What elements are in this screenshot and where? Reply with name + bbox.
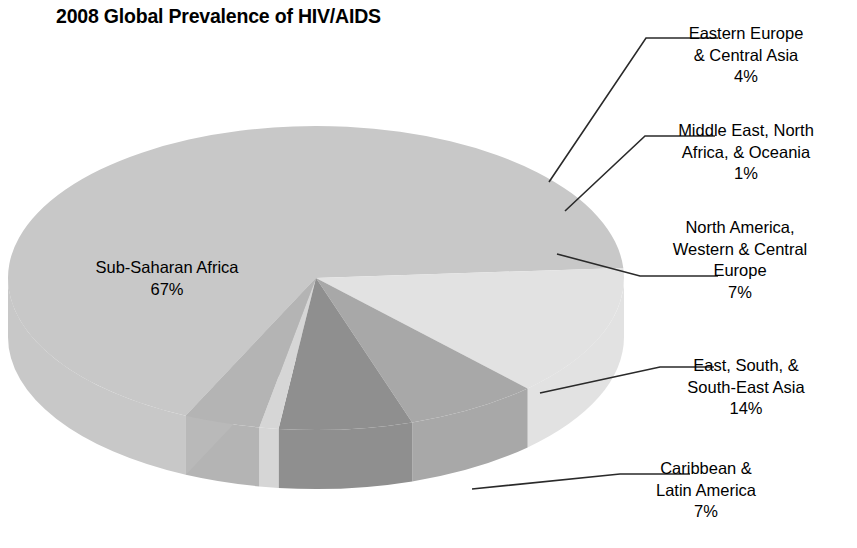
callout-percent: 14% — [648, 398, 844, 419]
slice-side-middle-east-north-africa-oceania — [259, 427, 278, 488]
slice-side-north-america-western-central-europe — [279, 422, 413, 489]
callout-name: Caribbean & Latin America — [656, 459, 756, 498]
callout-north-america-western-central-europe: North America, Western & Central Europe … — [636, 196, 844, 325]
callout-name: Eastern Europe & Central Asia — [689, 24, 804, 63]
callout-percent: 7% — [608, 501, 804, 522]
callout-percent: 1% — [648, 163, 844, 184]
slice-label-sub-saharan-africa: Sub-Saharan Africa 67% — [58, 236, 276, 300]
slice-label-percent: 67% — [150, 280, 183, 298]
callout-name: East, South, & South-East Asia — [687, 356, 804, 395]
callout-name: North America, Western & Central Europe — [673, 218, 808, 279]
slice-label-name: Sub-Saharan Africa — [95, 258, 238, 276]
callout-middle-east-north-africa-oceania: Middle East, North Africa, & Oceania 1% — [648, 99, 844, 206]
callout-eastern-europe-central-asia: Eastern Europe & Central Asia 4% — [648, 2, 844, 109]
callout-name: Middle East, North Africa, & Oceania — [678, 121, 814, 160]
callout-caribbean-latin-america: Caribbean & Latin America 7% — [608, 437, 804, 544]
pie-chart-figure: 2008 Global Prevalence of HIV/AIDS Sub-S… — [0, 0, 857, 548]
callout-east-south-south-east-asia: East, South, & South-East Asia 14% — [648, 334, 844, 441]
callout-percent: 7% — [636, 282, 844, 303]
callout-percent: 4% — [648, 66, 844, 87]
